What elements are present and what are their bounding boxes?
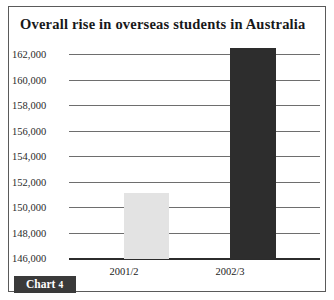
chart-badge-label: Chart: [26, 278, 55, 290]
plot-area: 162,000 160,000 158,000 156,000 154,000 …: [12, 48, 322, 264]
chart-number-badge: Chart4: [14, 276, 76, 293]
y-axis-tick-label: 156,000: [12, 125, 64, 139]
chart-figure: Overall rise in overseas students in Aus…: [0, 0, 334, 300]
y-axis-tick-label: 154,000: [12, 150, 64, 164]
y-axis-tick-label: 150,000: [12, 201, 64, 215]
y-axis-tick-label: 152,000: [12, 176, 64, 190]
y-axis-tick-label: 160,000: [12, 74, 64, 88]
bar-2001-2: [124, 193, 169, 259]
y-axis-tick-label: 162,000: [12, 48, 64, 62]
bar-2002-3: [230, 48, 276, 259]
y-axis-tick-label: 146,000: [12, 252, 64, 266]
bar-group: [69, 48, 320, 259]
chart-badge-number: 4: [58, 280, 63, 290]
x-axis-category-label-2002-3: 2002/3: [198, 266, 262, 277]
y-axis-tick-label: 158,000: [12, 99, 64, 113]
chart-title: Overall rise in overseas students in Aus…: [20, 16, 320, 33]
y-axis-tick-label: 148,000: [12, 227, 64, 241]
x-axis-category-label-2001-2: 2001/2: [92, 266, 156, 277]
